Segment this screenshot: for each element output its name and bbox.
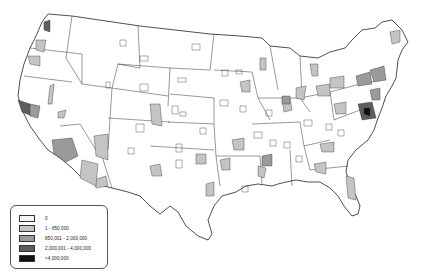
legend-item: 0 — [19, 214, 48, 222]
legend-item: >4,000,000 — [19, 254, 69, 262]
legend-swatch — [19, 225, 35, 232]
legend-swatch — [19, 215, 35, 222]
legend-swatch — [19, 235, 35, 242]
legend-swatch — [19, 255, 35, 262]
legend-label: 1 - 850,000 — [45, 226, 69, 231]
legend-item: 1 - 850,000 — [19, 224, 69, 232]
map-legend: 0 1 - 850,000 850,001 - 2,000,000 2,000,… — [10, 205, 108, 269]
legend-label: 2,000,001 - 4,000,000 — [45, 246, 91, 251]
legend-item: 850,001 - 2,000,000 — [19, 234, 87, 242]
legend-label: 850,001 - 2,000,000 — [45, 236, 87, 241]
legend-label: 0 — [45, 216, 48, 221]
legend-swatch — [19, 245, 35, 252]
legend-item: 2,000,001 - 4,000,000 — [19, 244, 91, 252]
legend-label: >4,000,000 — [45, 256, 69, 261]
